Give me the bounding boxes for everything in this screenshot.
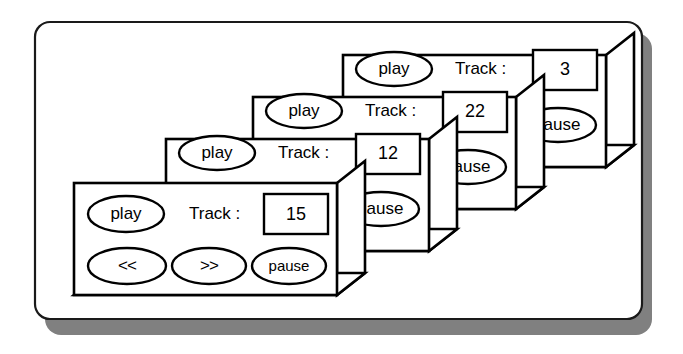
pause-button-label-front: pause (269, 257, 310, 274)
pause-button-label-back: ause (544, 115, 581, 134)
play-button-label-front: play (110, 204, 142, 223)
track-label-second: Track : (278, 143, 329, 162)
rewind-button-label-front: << (118, 256, 137, 275)
track-label-back: Track : (455, 59, 506, 78)
track-label-third: Track : (365, 101, 416, 120)
forward-button-label-front: >> (200, 256, 219, 275)
track-value-back: 3 (560, 59, 570, 79)
diagram-canvas: play Track : 3 ause play Track : 22 ause (0, 0, 683, 354)
play-button-label-back: play (378, 59, 410, 78)
track-value-second: 12 (378, 143, 398, 163)
track-value-third: 22 (465, 101, 485, 121)
track-value-front: 15 (286, 204, 306, 224)
pause-button-label-third: ause (454, 157, 491, 176)
track-label-front: Track : (189, 204, 240, 223)
play-button-label-second: play (201, 143, 233, 162)
play-button-label-third: play (288, 101, 320, 120)
pause-button-label-second: ause (367, 199, 404, 218)
